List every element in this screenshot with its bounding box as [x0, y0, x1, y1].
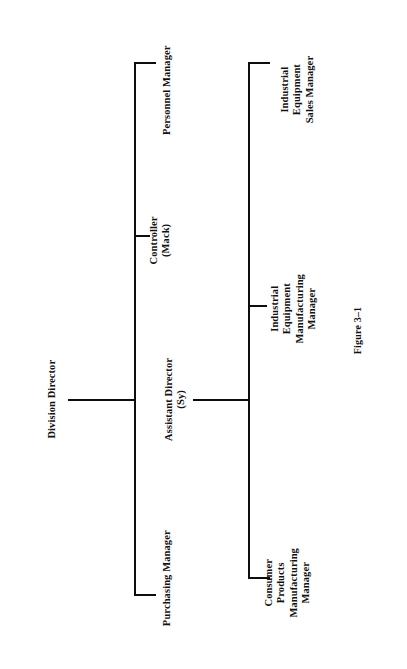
figure-caption: Figure 3–1: [352, 303, 363, 359]
edge-to-personnel-manager: [134, 62, 156, 64]
trunk-line-secondary: [248, 62, 250, 579]
edge-assistant-director-to-trunk: [193, 399, 250, 401]
node-label-controller: Controller (Mack): [148, 199, 173, 281]
org-chart-figure: Division Director Assistant Director (Sy…: [0, 0, 407, 669]
edge-to-industrial-equipment-sales-manager: [248, 62, 270, 64]
edge-to-industrial-equipment-manufacturing-manager: [248, 305, 267, 307]
node-label-consumer-products-manufacturing-manager: Consumer Products Manufacturing Manager: [263, 524, 313, 642]
node-label-division-director: Division Director: [46, 344, 58, 454]
edge-division-director-to-trunk: [68, 399, 136, 401]
node-label-purchasing-manager: Purchasing Manager: [161, 515, 173, 641]
node-label-industrial-equipment-manufacturing-manager: Industrial Equipment Manufacturing Manag…: [269, 250, 319, 368]
edge-to-purchasing-manager: [134, 594, 156, 596]
node-label-industrial-equipment-sales-manager: Industrial Equipment Sales Manager: [279, 35, 316, 145]
trunk-line-primary: [134, 62, 136, 596]
node-label-personnel-manager: Personnel Manager: [161, 29, 173, 151]
node-label-assistant-director: Assistant Director (Sy): [163, 340, 188, 458]
